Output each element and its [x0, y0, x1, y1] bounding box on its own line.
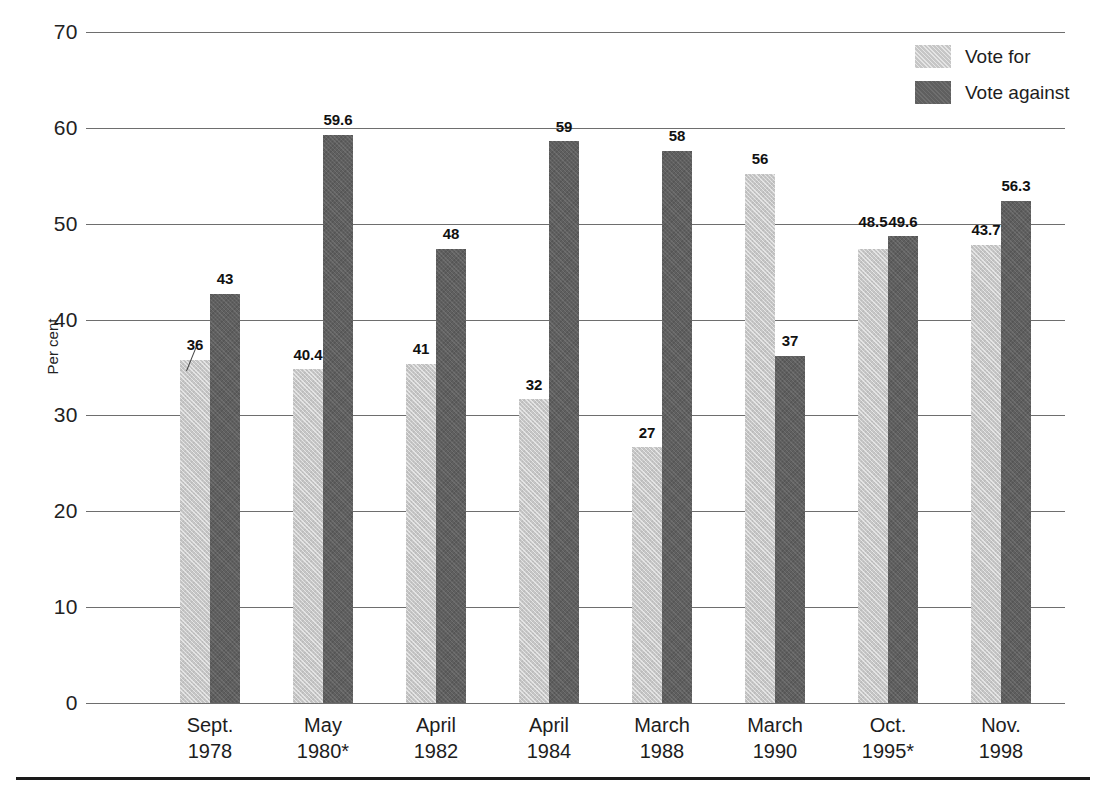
y-tick-50: 50 [32, 212, 78, 236]
bar-vote-against[interactable] [549, 141, 579, 703]
bar-vote-for[interactable] [180, 360, 210, 703]
y-tick-20: 20 [32, 499, 78, 523]
bar-label-vote-for: 27 [617, 424, 677, 441]
bar-label-vote-for: 40.4 [278, 346, 338, 363]
bar-vote-for[interactable] [293, 369, 323, 703]
y-tick-30: 30 [32, 403, 78, 427]
gridline-40 [108, 320, 1065, 321]
bar-label-vote-against: 43 [195, 270, 255, 287]
y-tick-10: 10 [32, 595, 78, 619]
bar-label-vote-against: 56.3 [986, 177, 1046, 194]
bar-label-vote-against: 59.6 [308, 111, 368, 128]
bar-label-vote-for: 43.7 [956, 221, 1016, 238]
bar-vote-against[interactable] [1001, 201, 1031, 703]
gridline-10 [108, 607, 1065, 608]
bar-vote-for[interactable] [406, 364, 436, 703]
x-axis-tick-labels: Sept. 1978 May 1980* April 1982 April 19… [108, 712, 1065, 776]
gridline-70 [108, 32, 1065, 33]
bar-vote-for[interactable] [745, 174, 775, 703]
x-tick-label: Nov. 1998 [931, 712, 1071, 765]
bar-vote-against[interactable] [888, 236, 918, 703]
y-axis-title: Per cent [44, 287, 61, 407]
bar-label-vote-against: 37 [760, 332, 820, 349]
bar-label-vote-for: 41 [391, 340, 451, 357]
legend-item-vote-against[interactable]: Vote against [915, 81, 1095, 104]
bar-label-vote-against: 48 [421, 225, 481, 242]
x-tick-line1: Nov. [931, 712, 1071, 738]
bar-label-vote-against: 49.6 [873, 213, 933, 230]
bar-vote-against[interactable] [323, 135, 353, 703]
y-tick-0: 0 [32, 691, 78, 715]
bar-label-vote-for: 32 [504, 376, 564, 393]
legend-swatch-icon [915, 81, 951, 104]
gridline-20 [108, 511, 1065, 512]
x-axis-line [108, 703, 1065, 704]
bar-vote-against[interactable] [210, 294, 240, 703]
bar-vote-for[interactable] [971, 245, 1001, 703]
bar-label-vote-against: 58 [647, 127, 707, 144]
legend-label: Vote against [965, 82, 1070, 104]
bar-vote-against[interactable] [775, 356, 805, 703]
y-tick-60: 60 [32, 116, 78, 140]
plot-area: 36 43 40.4 59.6 41 48 32 59 [108, 32, 1065, 703]
x-tick-line2: 1998 [931, 738, 1071, 764]
legend-label: Vote for [965, 46, 1031, 68]
chart-legend: Vote for Vote against [915, 45, 1095, 117]
bottom-rule [16, 777, 1090, 780]
bar-label-vote-against: 59 [534, 118, 594, 135]
legend-item-vote-for[interactable]: Vote for [915, 45, 1095, 68]
gridline-30 [108, 415, 1065, 416]
chart-page: 70 60 50 40 30 20 10 0 Per cent 36 43 [0, 0, 1101, 800]
bar-label-vote-for: 56 [730, 150, 790, 167]
bar-vote-for[interactable] [858, 249, 888, 703]
bar-vote-for[interactable] [632, 447, 662, 703]
legend-swatch-icon [915, 45, 951, 68]
y-tick-70: 70 [32, 20, 78, 44]
bar-vote-against[interactable] [436, 249, 466, 703]
bar-vote-for[interactable] [519, 399, 549, 703]
